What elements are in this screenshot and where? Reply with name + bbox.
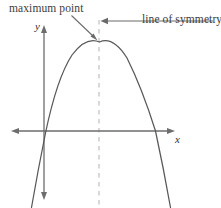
x-axis-label: x <box>175 134 180 145</box>
parabola-curve <box>32 41 171 208</box>
maximum-point-leader-arrow <box>72 16 98 41</box>
y-axis <box>41 25 47 200</box>
y-axis-label: y <box>35 21 40 32</box>
line-of-symmetry-label: line of symmetry <box>142 14 221 26</box>
figure-canvas <box>0 0 221 208</box>
maximum-point-label: maximum point <box>9 3 83 15</box>
x-axis <box>11 128 175 134</box>
parabola-figure: maximum point line of symmetry y x <box>0 0 221 208</box>
